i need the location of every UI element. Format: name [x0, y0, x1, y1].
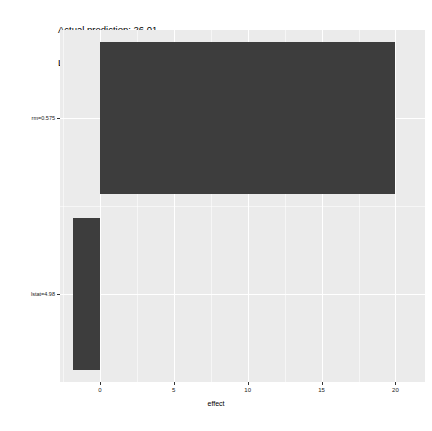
y-tick-label: rm=0.575	[32, 115, 55, 121]
x-tick-mark	[395, 382, 396, 385]
x-tick-mark	[248, 382, 249, 385]
x-tick-label: 15	[318, 387, 325, 393]
x-axis-title: effect	[0, 400, 432, 407]
x-tick-mark	[174, 382, 175, 385]
x-tick-label: 0	[98, 387, 101, 393]
x-tick-label: 10	[244, 387, 251, 393]
y-tick-mark	[57, 294, 60, 295]
gridline-minor-horizontal	[60, 206, 425, 207]
y-tick-label: lstat=4.98	[31, 291, 55, 297]
gridline-major-horizontal	[60, 294, 425, 295]
y-tick-mark	[57, 118, 60, 119]
x-tick-label: 5	[172, 387, 175, 393]
plot-panel	[60, 30, 425, 382]
x-tick-label: 20	[392, 387, 399, 393]
x-tick-mark	[322, 382, 323, 385]
bar	[73, 218, 100, 369]
x-tick-mark	[100, 382, 101, 385]
bar	[100, 42, 396, 193]
